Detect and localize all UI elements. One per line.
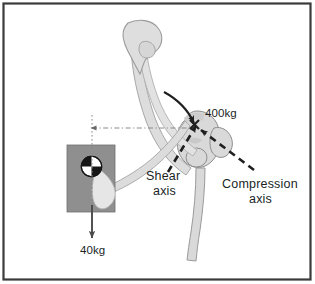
compression-axis-label-line1: Compression (222, 177, 298, 191)
compression-axis-label-line2: axis (249, 192, 272, 206)
load-block-group (67, 145, 115, 212)
figure-root: 400kg 40kg Shear axis Compression axis (0, 0, 315, 284)
force-40kg-label: 40kg (80, 244, 105, 256)
biomechanics-diagram-svg: 400kg 40kg Shear axis Compression axis (0, 0, 315, 284)
force-400kg-label: 400kg (205, 107, 237, 119)
shear-axis-label-line2: axis (153, 184, 176, 198)
shoulder-joint (139, 41, 155, 58)
shear-axis-label-line1: Shear (146, 169, 180, 183)
